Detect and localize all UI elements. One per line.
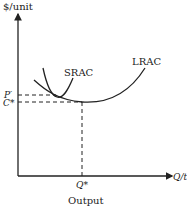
x-axis-caption: Output — [68, 195, 104, 206]
lrac-label: LRAC — [132, 56, 161, 67]
y-axis-label: $/unit — [3, 1, 33, 12]
q-star-tick-label: Q* — [76, 180, 88, 190]
c-star-tick-label: C* — [3, 98, 15, 108]
srac-label: SRAC — [64, 67, 94, 78]
cost-curve-diagram: $/unit Q/t Output SRAC LRAC P′ C* Q* — [0, 0, 187, 210]
x-axis-label: Q/t — [173, 172, 187, 182]
